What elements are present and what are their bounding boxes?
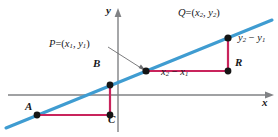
rise-sub-1: 1 xyxy=(262,36,265,43)
run-sub-2: 2 xyxy=(166,70,169,77)
run-label: x2 − x1 xyxy=(161,67,188,78)
point-b-dot xyxy=(107,82,114,89)
x-axis xyxy=(8,92,274,99)
point-b-label: B xyxy=(93,58,100,69)
point-p-dot xyxy=(142,67,149,74)
blue-line xyxy=(6,20,272,128)
point-r-label: R xyxy=(235,57,242,68)
q-name: Q xyxy=(178,7,186,18)
run-minus: − xyxy=(172,66,178,77)
point-a-label: A xyxy=(25,101,32,112)
diagram-canvas xyxy=(0,0,278,137)
point-q-coordinate-label: Q=(x2, y2) xyxy=(178,8,220,19)
x-axis-label: x xyxy=(262,97,268,108)
point-a-dot xyxy=(34,112,41,119)
q-comma: , xyxy=(203,7,206,18)
rise-sub-2: 2 xyxy=(243,36,246,43)
p-paren-close: ) xyxy=(86,38,90,49)
point-q-dot xyxy=(224,34,231,41)
rise-minus: − xyxy=(249,32,255,43)
point-r-dot xyxy=(225,68,232,75)
p-label-leader-line xyxy=(108,47,141,68)
run-sub-1: 1 xyxy=(185,70,188,77)
rise-label: y2 − y1 xyxy=(238,33,265,44)
point-c-label: C xyxy=(108,114,115,125)
y-axis-arrowhead xyxy=(115,8,122,17)
point-p-coordinate-label: P=(x1, y1) xyxy=(49,39,90,50)
y-axis xyxy=(115,8,122,132)
slope-diagram-figure: x y A B C R P=(x1, y1) Q=(x2, y2) y2 − y… xyxy=(0,0,278,137)
p-comma: , xyxy=(73,38,76,49)
q-paren-close: ) xyxy=(216,7,220,18)
y-axis-label: y xyxy=(106,5,111,16)
